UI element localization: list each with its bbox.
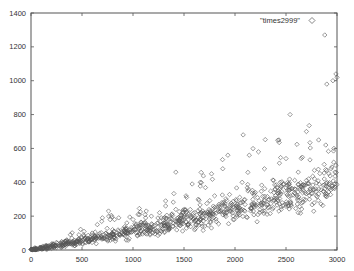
scatter-chart: 050010001500200025003000 020040060080010… [0,0,354,271]
y-tick-label: 200 [13,212,26,221]
y-tick-label: 1400 [9,9,26,18]
data-points [29,33,339,252]
y-tick-label: 0 [22,246,26,255]
x-tick-label: 1000 [125,255,142,264]
x-tick-label: 0 [29,255,33,264]
x-tick-label: 2000 [227,255,244,264]
y-tick-label: 600 [13,144,26,153]
y-tick-label: 400 [13,178,26,187]
plot-canvas: 050010001500200025003000 020040060080010… [0,0,354,271]
legend-label: "times2999" [260,16,300,25]
legend: "times2999" [260,16,315,25]
x-tick-label: 3000 [329,255,346,264]
x-tick-label: 1500 [176,255,193,264]
y-tick-label: 1200 [9,42,26,51]
x-tick-label: 2500 [278,255,295,264]
y-tick-label: 1000 [9,76,26,85]
legend-diamond-icon [309,18,315,24]
plot-frame [31,13,337,250]
y-tick-label: 800 [13,110,26,119]
x-tick-label: 500 [76,255,89,264]
